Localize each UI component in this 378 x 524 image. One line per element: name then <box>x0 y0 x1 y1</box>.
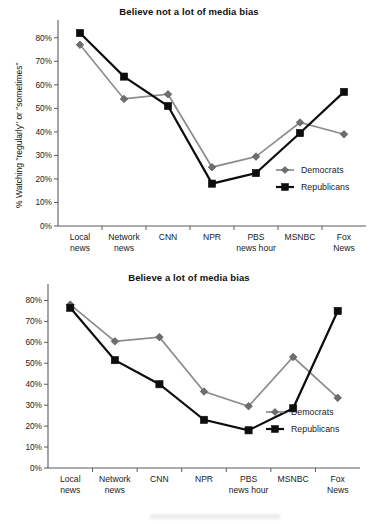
y-tick-label: 70% <box>25 316 42 326</box>
chart-panel-believe-a-lot: Believe a lot of media bias 0%10%20%30%4… <box>0 266 378 524</box>
y-tick-label: 20% <box>25 421 42 431</box>
y-tick-label: 0% <box>40 221 53 231</box>
legend-label-republicans: Republicans <box>291 424 340 434</box>
data-point-republicans <box>334 307 341 314</box>
y-tick-label: 50% <box>35 103 52 113</box>
y-tick-label: 60% <box>25 337 42 347</box>
y-tick-label: 0% <box>30 463 43 473</box>
data-point-democrats <box>208 163 216 171</box>
y-tick-label: 10% <box>35 197 52 207</box>
y-tick-label: 40% <box>25 379 42 389</box>
data-point-republicans <box>120 73 127 80</box>
data-point-republicans <box>252 169 259 176</box>
data-point-republicans <box>156 381 163 388</box>
y-tick-label: 80% <box>35 33 52 43</box>
x-category-label: Local <box>60 474 81 484</box>
x-category-label: Network <box>108 232 140 242</box>
x-category-label: CNN <box>150 474 169 484</box>
data-point-republicans <box>208 180 215 187</box>
data-point-republicans <box>296 129 303 136</box>
x-category-label: Local <box>70 232 91 242</box>
x-category-label: Fox <box>337 232 352 242</box>
legend-marker-democrats <box>272 409 279 416</box>
chart-panel-believe-not-a-lot: Believe not a lot of media bias % Watchi… <box>0 0 378 266</box>
x-category-label: News <box>327 485 349 495</box>
data-point-republicans <box>340 88 347 95</box>
legend-label-republicans: Republicans <box>301 182 350 192</box>
x-category-label: news hour <box>229 485 269 495</box>
data-point-republicans <box>111 357 118 364</box>
series-line-democrats <box>80 45 344 167</box>
x-category-label: Network <box>99 474 131 484</box>
y-tick-label: 30% <box>25 400 42 410</box>
x-category-label: MSNBC <box>278 474 309 484</box>
x-category-label: news <box>114 243 134 253</box>
data-point-republicans <box>76 29 83 36</box>
y-tick-label: 20% <box>35 174 52 184</box>
legend-label-democrats: Democrats <box>301 165 344 175</box>
legend-marker-republicans <box>272 426 279 433</box>
y-tick-label: 80% <box>25 295 42 305</box>
y-tick-label: 70% <box>35 56 52 66</box>
x-category-label: News <box>333 243 355 253</box>
x-category-label: news hour <box>236 243 276 253</box>
legend-label-democrats: Democrats <box>291 407 334 417</box>
data-point-democrats <box>164 90 172 98</box>
series-line-republicans <box>80 33 344 184</box>
x-category-label: news <box>70 243 90 253</box>
scan-artifact <box>150 514 280 519</box>
y-tick-label: 40% <box>35 127 52 137</box>
x-category-label: MSNBC <box>284 232 315 242</box>
legend-marker-democrats <box>282 167 289 174</box>
data-point-republicans <box>164 102 171 109</box>
data-point-republicans <box>67 304 74 311</box>
plot-area-top: 0%10%20%30%40%50%60%70%80%LocalnewsNetwo… <box>0 0 378 266</box>
data-point-republicans <box>245 427 252 434</box>
x-category-label: news <box>105 485 125 495</box>
legend-marker-republicans <box>282 184 289 191</box>
x-category-label: NPR <box>203 232 221 242</box>
y-tick-label: 30% <box>35 150 52 160</box>
y-tick-label: 60% <box>35 80 52 90</box>
x-category-label: Fox <box>331 474 346 484</box>
y-tick-label: 50% <box>25 358 42 368</box>
figure-two-line-charts: Believe not a lot of media bias % Watchi… <box>0 0 378 524</box>
x-category-label: PBS <box>247 232 264 242</box>
x-category-label: NPR <box>195 474 213 484</box>
plot-area-bottom: 0%10%20%30%40%50%60%70%80%LocalnewsNetwo… <box>0 266 378 524</box>
data-point-republicans <box>200 416 207 423</box>
data-point-democrats <box>340 130 348 138</box>
x-category-label: PBS <box>240 474 257 484</box>
y-tick-label: 10% <box>25 442 42 452</box>
x-category-label: news <box>60 485 80 495</box>
x-category-label: CNN <box>159 232 178 242</box>
